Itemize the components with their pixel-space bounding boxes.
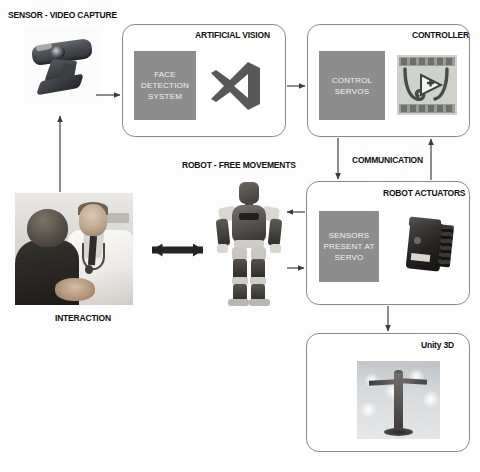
stethoscope-bell (85, 265, 93, 274)
robot-thigh-left (233, 259, 247, 279)
unity-robot-body (394, 373, 404, 432)
humanoid-robot-photo (208, 180, 290, 308)
unity-robot-base-shadow (384, 428, 412, 436)
patient-head (27, 209, 68, 247)
diagram-canvas: SENSOR - VIDEO CAPTURE ARTIFICIAL VISION… (0, 0, 480, 472)
label-artificial-vision: ARTIFICIAL VISION (195, 30, 270, 40)
clasped-hands (55, 278, 95, 300)
robot-arm-right (268, 218, 283, 246)
unity-light-glow (360, 402, 377, 418)
label-controller: CONTROLLER (412, 30, 469, 40)
label-unity-3d: Unity 3D (421, 340, 454, 350)
sensors-line-3: SERVO (335, 253, 364, 262)
robot-foot-right (249, 299, 270, 306)
robot-head (239, 182, 259, 204)
label-communication: COMMUNICATION (352, 155, 423, 165)
control-servos-line-2: SERVOS (335, 87, 369, 96)
webcam-stand (36, 74, 84, 96)
visual-studio-logo-icon (208, 58, 264, 114)
face-detection-line-1: FACE (154, 70, 176, 79)
face-detection-line-3: SYSTEM (148, 92, 182, 101)
unity-robot-arm-left (369, 379, 396, 385)
doctor-patient-interaction-photo (15, 193, 133, 305)
block-face-detection-system: FACE DETECTION SYSTEM (134, 51, 196, 120)
label-interaction: INTERACTION (55, 313, 111, 323)
robot-hand-right (270, 244, 281, 253)
block-control-servos: CONTROL SERVOS (319, 51, 385, 120)
control-servos-line-1: CONTROL (332, 76, 373, 85)
robot-arm-left (216, 218, 231, 246)
unity-light-glow (422, 391, 440, 408)
label-robot-free-movements: ROBOT - FREE MOVEMENTS (182, 160, 296, 170)
label-sensor-video-capture: SENSOR - VIDEO CAPTURE (8, 10, 117, 20)
robot-chest-panel (239, 213, 259, 220)
doctor-head (79, 204, 107, 235)
unity-3d-scene-screenshot (357, 361, 440, 439)
robot-thigh-right (251, 259, 265, 279)
servo-motor-photo (400, 212, 458, 282)
robot-foot-left (228, 299, 249, 306)
robot-torso (232, 205, 266, 243)
label-robot-actuators: ROBOT ACTUATORS (383, 188, 465, 198)
robot-hand-left (217, 244, 228, 253)
block-sensors-present-at-servo: SENSORS PRESENT AT SERVO (319, 211, 379, 282)
sensors-line-2: PRESENT AT (323, 242, 374, 251)
sensors-line-1: SENSORS (329, 231, 370, 240)
face-detection-line-2: DETECTION (141, 81, 189, 90)
labview-logo-icon (397, 55, 457, 115)
webcam-photo (24, 28, 100, 98)
